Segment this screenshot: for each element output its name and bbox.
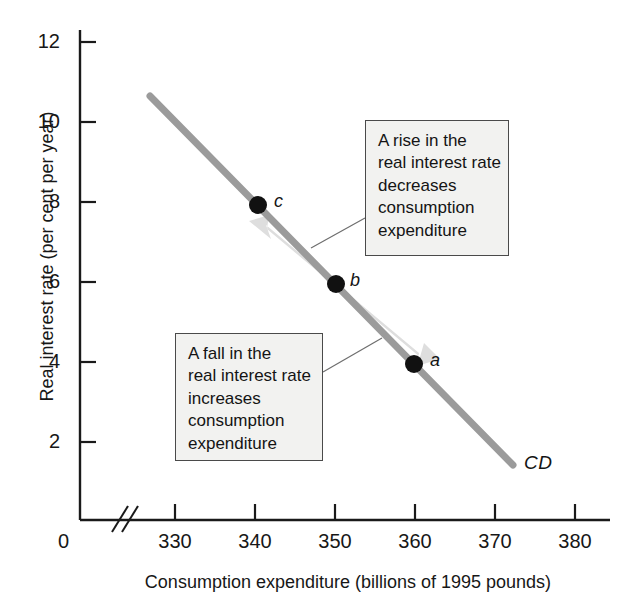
callout-rise-line-5: expenditure xyxy=(378,220,497,242)
callout-rise-line-2: real interest rate xyxy=(378,152,497,174)
callout-rise: A rise in the real interest rate decreas… xyxy=(365,120,509,256)
chart-canvas xyxy=(0,0,626,608)
y-tick-label-12: 12 xyxy=(20,30,60,53)
curve-label-cd: CD xyxy=(524,452,552,474)
point-label-c: c xyxy=(274,191,283,212)
x-axis-ticks xyxy=(175,504,575,520)
callout-fall-line-1: A fall in the xyxy=(188,343,311,365)
x-axis-title: Consumption expenditure (billions of 199… xyxy=(78,572,618,593)
callout-rise-line-1: A rise in the xyxy=(378,130,497,152)
point-label-a: a xyxy=(430,350,440,371)
data-point-c xyxy=(249,196,267,214)
callout-fall-line-3: increases xyxy=(188,388,311,410)
y-tick-label-2: 2 xyxy=(20,430,60,453)
x-tick-label-380: 380 xyxy=(545,530,605,553)
x-tick-label-370: 370 xyxy=(465,530,525,553)
point-label-b: b xyxy=(350,270,360,291)
y-axis-ticks xyxy=(80,42,96,442)
callout-rise-leader xyxy=(311,218,365,248)
callout-fall-leader xyxy=(323,338,382,372)
callout-fall-line-2: real interest rate xyxy=(188,365,311,387)
callout-rise-line-4: consumption xyxy=(378,197,497,219)
callout-fall: A fall in the real interest rate increas… xyxy=(175,333,323,461)
x-tick-label-330: 330 xyxy=(145,530,205,553)
data-point-a xyxy=(405,355,423,373)
data-point-b xyxy=(327,275,345,293)
origin-label: 0 xyxy=(58,530,69,553)
figure-consumption-demand-curve: 12 10 8 6 4 2 0 330 340 350 360 370 380 … xyxy=(0,0,626,608)
x-tick-label-340: 340 xyxy=(225,530,285,553)
x-tick-label-360: 360 xyxy=(385,530,445,553)
callout-fall-line-4: consumption xyxy=(188,410,311,432)
callout-rise-line-3: decreases xyxy=(378,175,497,197)
callout-fall-line-5: expenditure xyxy=(188,433,311,455)
x-tick-label-350: 350 xyxy=(305,530,365,553)
y-axis-title: Real interest rate (per cent per year) xyxy=(37,92,58,422)
